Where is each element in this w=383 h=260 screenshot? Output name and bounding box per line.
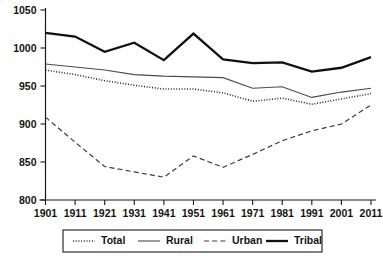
x-tick-label: 1921	[93, 207, 117, 219]
x-tick-label: 1991	[300, 207, 324, 219]
y-tick-label: 1050	[13, 4, 37, 16]
x-tick-label: 1961	[211, 207, 235, 219]
y-tick-label: 1000	[13, 42, 37, 54]
legend-label-tribal: Tribal	[294, 234, 322, 246]
legend-label-urban: Urban	[232, 234, 262, 246]
chart-background	[0, 0, 383, 260]
line-chart-figure: 80085090095010001050 1901191119211931194…	[0, 0, 383, 260]
y-tick-label: 950	[19, 80, 37, 92]
x-tick-label: 1931	[123, 207, 147, 219]
chart-legend: TotalRuralUrbanTribal	[63, 230, 322, 252]
y-tick-label: 850	[19, 156, 37, 168]
x-tick-label: 1941	[152, 207, 176, 219]
chart-canvas: 80085090095010001050 1901191119211931194…	[0, 0, 383, 260]
y-tick-label: 900	[19, 118, 37, 130]
x-tick-label: 1981	[271, 207, 295, 219]
legend-label-rural: Rural	[166, 234, 193, 246]
x-tick-label: 1901	[34, 207, 58, 219]
x-tick-label: 1951	[182, 207, 206, 219]
y-tick-label: 800	[19, 194, 37, 206]
x-tick-label: 1911	[64, 207, 87, 219]
x-tick-label: 2001	[330, 207, 354, 219]
x-tick-label: 2011	[360, 207, 383, 219]
legend-label-total: Total	[101, 234, 125, 246]
x-tick-label: 1971	[241, 207, 265, 219]
